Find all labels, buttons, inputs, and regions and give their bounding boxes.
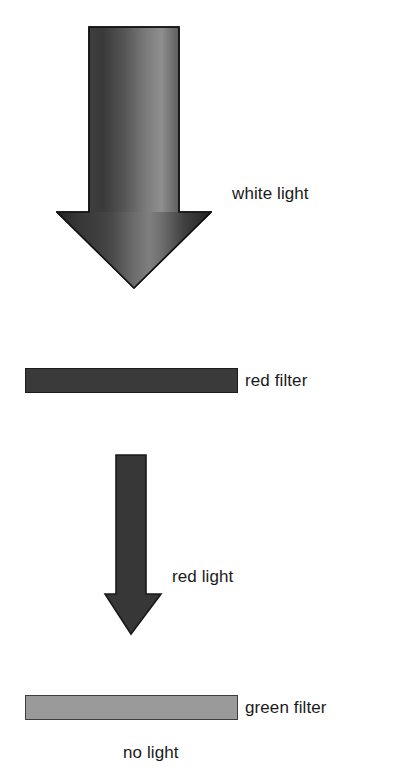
white-light-arrow: [56, 26, 212, 290]
down-arrow-icon: [56, 26, 212, 290]
red-light-label: red light: [172, 568, 233, 585]
down-arrow-icon: [103, 454, 163, 636]
no-light-label: no light: [123, 744, 179, 761]
green-filter-bar: [25, 695, 238, 720]
red-filter-bar: [25, 368, 238, 393]
green-filter-label: green filter: [245, 699, 327, 716]
red-filter-label: red filter: [245, 372, 307, 389]
red-light-arrow: [103, 454, 163, 636]
white-light-label: white light: [232, 185, 309, 202]
light-filter-diagram: white light red filter red light green f…: [0, 0, 398, 773]
